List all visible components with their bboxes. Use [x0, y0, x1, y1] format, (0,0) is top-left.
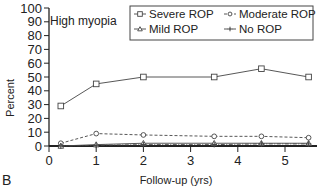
y-tick-label: 50	[28, 70, 42, 85]
legend: Severe ROPModerate ROPMild ROPNo ROP	[130, 6, 316, 40]
panel-label: B	[2, 172, 11, 188]
y-tick-label: 30	[28, 97, 42, 112]
y-tick-label: 40	[28, 83, 42, 98]
y-tick-label: 10	[28, 125, 42, 140]
chart-annotation: High myopia	[50, 14, 117, 28]
y-tick-label: 70	[28, 42, 42, 57]
x-axis: 012345	[45, 146, 317, 168]
legend-label: Mild ROP	[149, 23, 199, 35]
y-tick-label: 80	[28, 28, 42, 43]
x-tick-label: 1	[93, 153, 100, 168]
legend-label: Moderate ROP	[239, 8, 316, 20]
y-tick-label: 0	[35, 139, 42, 154]
legend-label: No ROP	[239, 23, 282, 35]
x-axis-label: Follow-up (yrs)	[140, 174, 213, 186]
series-severe-rop	[58, 66, 311, 109]
line-chart: 0102030405060708090100 012345 High myopi…	[0, 0, 317, 189]
y-tick-label: 60	[28, 56, 42, 71]
series-layer	[58, 66, 311, 149]
y-tick-label: 100	[20, 1, 42, 16]
x-tick-label: 5	[281, 153, 288, 168]
y-axis: 0102030405060708090100	[20, 1, 49, 154]
x-tick-label: 4	[234, 153, 241, 168]
y-tick-label: 20	[28, 111, 42, 126]
x-tick-label: 0	[45, 153, 52, 168]
legend-label: Severe ROP	[149, 8, 214, 20]
x-tick-label: 3	[187, 153, 194, 168]
x-tick-label: 2	[140, 153, 147, 168]
y-tick-label: 90	[28, 14, 42, 29]
y-axis-label: Percent	[4, 79, 16, 117]
